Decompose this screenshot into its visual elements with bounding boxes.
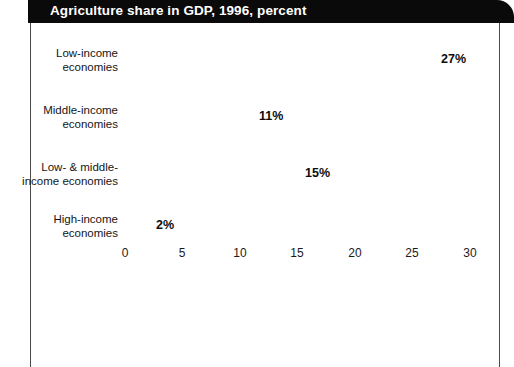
bar-middle-income bbox=[125, 102, 252, 130]
xtick-10: 10 bbox=[225, 246, 255, 260]
category-label-low-income: Low-income economies bbox=[10, 47, 118, 74]
bar-low-and-middle-income bbox=[125, 159, 297, 187]
bar-low-income bbox=[125, 45, 435, 73]
value-label-low-and-middle-income: 15% bbox=[305, 166, 330, 180]
category-label-line1: Low-income bbox=[10, 47, 118, 61]
xtick-0: 0 bbox=[110, 246, 140, 260]
xtick-5: 5 bbox=[167, 246, 197, 260]
category-label-line1: Middle-income bbox=[10, 104, 118, 118]
category-label-line2: income economies bbox=[10, 175, 118, 189]
plot-area: Low-income economies 27% Middle-income e… bbox=[0, 0, 514, 367]
value-label-high-income: 2% bbox=[156, 218, 174, 232]
category-label-line2: economies bbox=[10, 118, 118, 132]
chart-figure: Agriculture share in GDP, 1996, percent … bbox=[0, 0, 514, 367]
category-label-line1: High-income bbox=[10, 213, 118, 227]
xtick-25: 25 bbox=[397, 246, 427, 260]
value-label-low-income: 27% bbox=[441, 52, 466, 66]
xtick-20: 20 bbox=[340, 246, 370, 260]
category-label-line1: Low- & middle- bbox=[10, 161, 118, 175]
bar-high-income bbox=[125, 211, 151, 239]
xtick-15: 15 bbox=[282, 246, 312, 260]
category-label-high-income: High-income economies bbox=[10, 213, 118, 240]
xtick-30: 30 bbox=[455, 246, 485, 260]
category-label-line2: economies bbox=[10, 227, 118, 241]
category-label-low-and-middle-income: Low- & middle- income economies bbox=[10, 161, 118, 188]
category-label-line2: economies bbox=[10, 61, 118, 75]
category-label-middle-income: Middle-income economies bbox=[10, 104, 118, 131]
value-label-middle-income: 11% bbox=[259, 109, 283, 123]
